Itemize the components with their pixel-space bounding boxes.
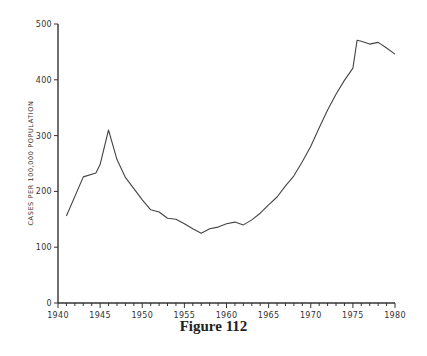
x-tick-label: 1955 <box>174 311 196 318</box>
data-line <box>66 40 395 233</box>
line-chart: 0100200300400500 19401945195019551960196… <box>0 0 427 318</box>
x-tick-label: 1945 <box>89 311 111 318</box>
x-tick-label: 1940 <box>47 311 69 318</box>
y-tick-label: 0 <box>47 299 52 308</box>
x-tick-label: 1960 <box>216 311 238 318</box>
x-tick-label: 1965 <box>258 311 280 318</box>
x-tick-label: 1950 <box>131 311 153 318</box>
x-tick-label: 1980 <box>384 311 406 318</box>
y-tick-label: 500 <box>36 20 52 29</box>
x-tick-label: 1975 <box>342 311 364 318</box>
x-axis: 194019451950195519601965197019751980 <box>47 303 406 318</box>
x-tick-label: 1970 <box>300 311 322 318</box>
y-tick-label: 300 <box>36 132 52 141</box>
y-axis-title: CASES PER 100,000 POPULATION <box>27 100 35 225</box>
y-tick-label: 200 <box>36 187 52 196</box>
y-tick-label: 100 <box>36 243 52 252</box>
figure-caption: Figure 112 <box>0 318 427 335</box>
y-axis: 0100200300400500 <box>36 20 58 308</box>
y-tick-label: 400 <box>36 76 52 85</box>
